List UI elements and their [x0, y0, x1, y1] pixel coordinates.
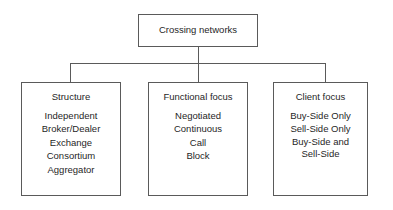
connector-drop-structure: [70, 63, 71, 83]
list-item: Block: [149, 149, 247, 162]
list-item: Sell-Side Only: [274, 122, 367, 135]
list-item: Consortium: [22, 149, 120, 162]
child-node-title: Client focus: [274, 91, 367, 103]
list-item: Broker/Dealer: [22, 122, 120, 135]
list-item: Buy-Side and Sell-Side: [274, 136, 367, 160]
list-item: Exchange: [22, 136, 120, 149]
diagram-canvas: Crossing networks Structure Independent …: [0, 0, 393, 210]
child-node-client-focus: Client focus Buy-Side Only Sell-Side Onl…: [273, 82, 368, 196]
list-item: Call: [149, 136, 247, 149]
connector-drop-client-focus: [325, 63, 326, 83]
root-node-crossing-networks: Crossing networks: [138, 14, 258, 47]
child-node-title: Structure: [22, 91, 120, 103]
child-node-structure: Structure Independent Broker/Dealer Exch…: [21, 82, 121, 196]
list-item: Aggregator: [22, 163, 120, 176]
child-node-item-list: Independent Broker/Dealer Exchange Conso…: [22, 109, 120, 176]
connector-root-stem: [198, 47, 199, 64]
list-item: Negotiated: [149, 109, 247, 122]
list-item: Continuous: [149, 122, 247, 135]
list-item: Buy-Side Only: [274, 109, 367, 122]
root-node-label: Crossing networks: [139, 24, 257, 36]
child-node-functional-focus: Functional focus Negotiated Continuous C…: [148, 82, 248, 196]
child-node-title: Functional focus: [149, 91, 247, 103]
child-node-item-list: Buy-Side Only Sell-Side Only Buy-Side an…: [274, 109, 367, 160]
child-node-item-list: Negotiated Continuous Call Block: [149, 109, 247, 163]
connector-drop-functional-focus: [198, 63, 199, 83]
list-item: Independent: [22, 109, 120, 122]
